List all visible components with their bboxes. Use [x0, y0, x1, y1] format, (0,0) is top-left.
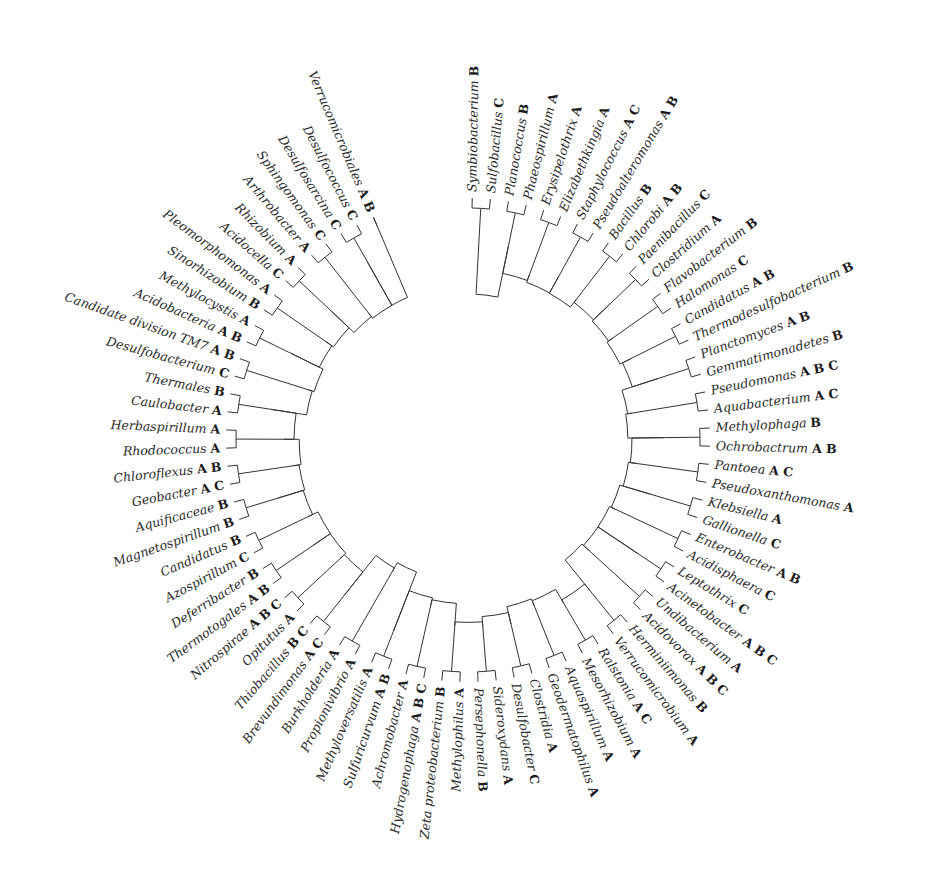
backbone-arc	[476, 294, 498, 297]
stem-branch	[483, 627, 487, 672]
backbone-arc	[354, 317, 371, 333]
phylogenetic-tree: Symbiobacterium BSulfobacillus CPlanococ…	[0, 0, 926, 887]
stem-branch	[650, 494, 690, 506]
tip-branch	[695, 392, 705, 394]
backbone-arc	[455, 622, 482, 623]
tip-branch	[672, 324, 681, 329]
stem-branch	[614, 306, 658, 337]
tip-branch	[641, 279, 648, 286]
backbone-arc	[307, 391, 313, 415]
internal-branch	[620, 485, 650, 494]
tip-branch	[495, 670, 496, 680]
backbone-arc	[294, 413, 296, 439]
group-letters: B	[810, 414, 821, 430]
tip-branch	[679, 340, 688, 344]
internal-branch	[404, 290, 407, 297]
backbone-arc	[344, 555, 363, 572]
tip-branch	[512, 668, 514, 678]
tip-branch	[666, 562, 675, 567]
tip-branch	[240, 359, 249, 362]
stem-branch	[529, 223, 548, 275]
taxon-name: Methylophaga	[714, 414, 810, 434]
internal-branch	[628, 462, 638, 463]
backbone-arc	[574, 302, 593, 319]
group-letters: A C	[768, 462, 794, 479]
group-letters: A B	[208, 340, 237, 363]
leaf-label: Persephonella B	[472, 686, 491, 792]
backbone-arc	[318, 512, 330, 534]
tree-branches	[226, 198, 710, 682]
tip-branch	[686, 357, 695, 360]
taxon-name: Herbaspirillum	[109, 417, 211, 436]
tip-branch	[247, 342, 256, 346]
backbone-arc	[630, 438, 632, 463]
tip-branch	[264, 310, 272, 315]
tip-branch	[603, 243, 609, 251]
internal-branch	[293, 465, 301, 466]
tip-branch	[239, 516, 248, 519]
leaf-label: Pantoea A C	[713, 456, 794, 479]
stem-branch	[377, 226, 404, 290]
internal-branch	[556, 589, 564, 603]
tip-branch	[682, 531, 691, 535]
backbone-arc	[373, 305, 392, 318]
stem-branch	[577, 256, 610, 299]
backbone-arc	[334, 328, 349, 347]
tip-branch	[562, 652, 566, 661]
internal-branch	[278, 490, 305, 498]
internal-branch	[549, 276, 558, 293]
tip-branch	[310, 616, 317, 624]
stem-branch	[259, 516, 309, 540]
tip-branch	[234, 499, 244, 502]
group-letters: A	[501, 773, 517, 786]
backbone-arc	[409, 591, 432, 598]
stem-branch	[354, 238, 367, 261]
backbone-arc	[392, 297, 408, 305]
tip-branch	[324, 627, 330, 635]
internal-branch	[610, 506, 615, 509]
group-letters: B	[213, 382, 226, 399]
tip-branch	[633, 603, 640, 610]
internal-branch	[508, 613, 511, 624]
leaf-label: Methylophilus A	[448, 687, 467, 793]
stem-branch	[589, 551, 639, 597]
backbone-arc	[607, 342, 620, 364]
tip-branch	[524, 205, 526, 215]
backbone-arc	[622, 390, 628, 414]
internal-branch	[345, 572, 363, 595]
stem-branch	[559, 237, 581, 276]
tip-branch	[573, 224, 578, 233]
internal-branch	[292, 354, 319, 367]
tip-branch	[255, 326, 264, 331]
taxon-name: Chloroflexus	[113, 461, 198, 485]
stem-branch	[631, 336, 675, 358]
tip-branch	[339, 637, 344, 645]
backbone-arc	[565, 544, 582, 560]
stem-branch	[239, 404, 271, 409]
backbone-arc	[303, 490, 312, 514]
backbone-arc	[623, 462, 628, 486]
tip-branch	[298, 268, 305, 275]
tip-branch	[578, 644, 583, 653]
backbone-arc	[592, 321, 608, 341]
backbone-arc	[319, 346, 332, 367]
internal-branch	[503, 246, 509, 273]
tip-branch	[656, 576, 664, 582]
taxon-name: Pantoea	[713, 456, 770, 477]
backbone-arc	[432, 600, 456, 604]
tip-branch	[688, 514, 697, 517]
tip-branch	[593, 636, 598, 644]
group-letters: A B	[195, 458, 222, 476]
backbone-arc	[527, 282, 550, 293]
group-letters: A C	[812, 385, 839, 403]
internal-branch	[393, 572, 416, 631]
internal-branch	[392, 568, 394, 571]
group-letters: A	[209, 440, 220, 455]
taxon-name: Ochrobactrum	[716, 438, 812, 455]
backbone-arc	[611, 485, 619, 507]
internal-branch	[592, 303, 611, 321]
taxon-name: Caulobacter	[130, 392, 213, 416]
group-letters: A C	[198, 477, 225, 496]
group-letters: B	[466, 66, 481, 77]
tip-branch	[507, 201, 509, 211]
